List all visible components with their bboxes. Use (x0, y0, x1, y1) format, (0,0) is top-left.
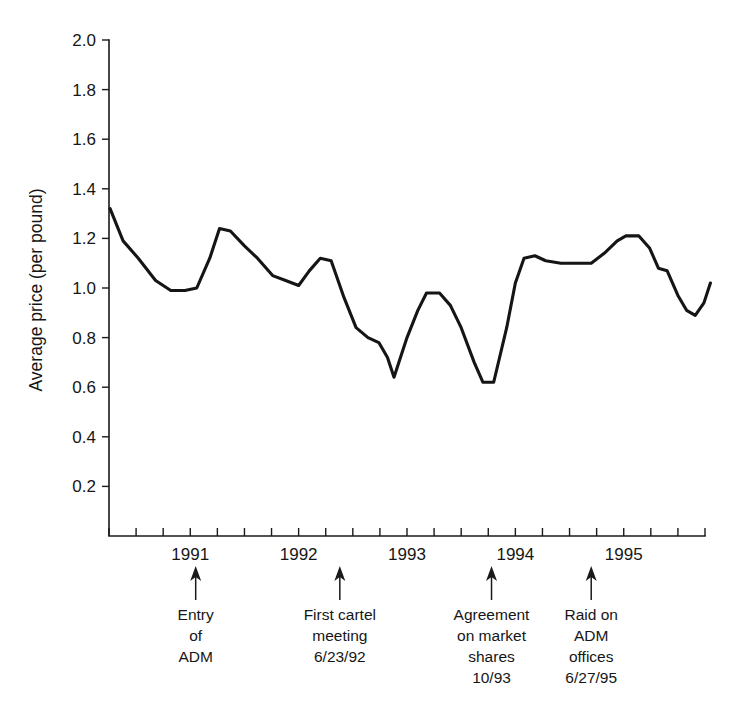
y-axis-label: Average price (per pound) (26, 189, 46, 392)
annotation-entry-of-adm: EntryofADM (178, 566, 214, 665)
annotation-first-cartel-meeting: First cartelmeeting6/23/92 (304, 566, 376, 665)
annotation-line: First cartel (304, 606, 376, 623)
annotation-line: 6/27/95 (565, 669, 617, 686)
y-tick-label: 1.0 (72, 279, 96, 298)
y-tick-label: 1.6 (72, 130, 96, 149)
y-tick-label: 1.4 (72, 180, 96, 199)
y-tick-label: 2.0 (72, 31, 96, 50)
x-tick-label: 1995 (605, 545, 643, 564)
line-chart: Average price (per pound) 0.20.40.60.81.… (0, 0, 736, 710)
annotation-line: 6/23/92 (314, 648, 366, 665)
price-series-line (110, 209, 710, 383)
y-tick-label: 0.4 (72, 428, 96, 447)
annotation-line: offices (569, 648, 614, 665)
y-axis-ticks: 0.20.40.60.81.01.21.41.61.82.0 (72, 31, 109, 496)
x-tick-label: 1992 (280, 545, 318, 564)
annotation-line: ADM (178, 648, 212, 665)
annotation-line: meeting (312, 627, 367, 644)
x-tick-label: 1993 (388, 545, 426, 564)
y-tick-label: 1.2 (72, 229, 96, 248)
annotation-raid-on-adm-offices: Raid onADMoffices6/27/95 (564, 566, 617, 686)
x-axis-tick-labels: 19911992199319941995 (171, 545, 642, 564)
annotation-line: Entry (178, 606, 214, 623)
annotation-line: Raid on (564, 606, 617, 623)
x-tick-label: 1994 (496, 545, 534, 564)
y-tick-label: 1.8 (72, 81, 96, 100)
annotation-line: 10/93 (472, 669, 511, 686)
y-tick-label: 0.8 (72, 329, 96, 348)
annotation-line: of (189, 627, 203, 644)
x-tick-label: 1991 (171, 545, 209, 564)
annotation-line: on market (457, 627, 527, 644)
annotation-line: Agreement (454, 606, 531, 623)
y-axis-label-text: Average price (per pound) (26, 189, 46, 392)
event-annotations: EntryofADMFirst cartelmeeting6/23/92Agre… (178, 566, 618, 686)
annotation-line: shares (468, 648, 515, 665)
figure-container: Average price (per pound) 0.20.40.60.81.… (0, 0, 736, 710)
x-axis-ticks (109, 528, 705, 536)
y-tick-label: 0.6 (72, 378, 96, 397)
annotation-line: ADM (574, 627, 608, 644)
annotation-agreement-on-market-shares: Agreementon marketshares10/93 (454, 566, 531, 686)
y-tick-label: 0.2 (72, 477, 96, 496)
